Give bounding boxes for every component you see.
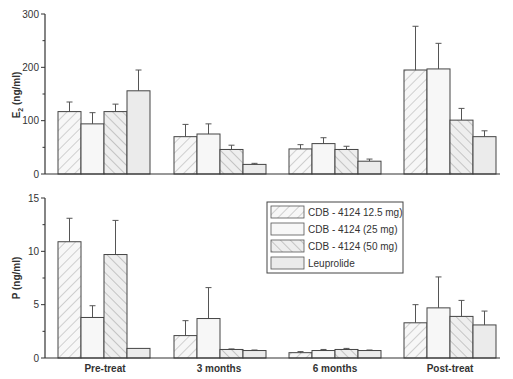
category-label-3-months: 3 months: [197, 363, 242, 374]
legend-label: CDB - 4124 (25 mg): [308, 224, 397, 235]
legend-label: CDB - 4124 12.5 mg): [308, 207, 403, 218]
y-tick-label: 0: [33, 169, 39, 180]
bar: [473, 325, 496, 358]
panel-e2: 0100200300: [22, 9, 500, 180]
legend-label: CDB - 4124 (50 mg): [308, 241, 397, 252]
bar: [174, 336, 197, 358]
bar: [335, 149, 358, 174]
bar: [220, 149, 243, 174]
bar: [197, 319, 220, 358]
bar: [358, 351, 381, 358]
bar: [312, 144, 335, 174]
bar: [127, 91, 150, 174]
category-labels: Pre-treat 3 months 6 months Post-treat: [84, 363, 474, 374]
y-tick-label: 0: [33, 353, 39, 364]
legend-swatch-hatch-forward: [271, 206, 304, 218]
y-tick-label: 200: [22, 62, 39, 73]
bar: [81, 124, 104, 174]
bar: [58, 242, 81, 358]
legend-swatch-plain-grey: [271, 257, 304, 269]
bar: [104, 112, 127, 174]
bar: [197, 134, 220, 174]
bar: [81, 317, 104, 358]
legend-item-leuprolide: Leuprolide: [271, 257, 355, 269]
figure: 0100200300 051015 E2 (ng/ml) P (ng/ml) P…: [0, 0, 513, 379]
legend-swatch-hatch-back: [271, 240, 304, 252]
legend-item-cdb-50: CDB - 4124 (50 mg): [271, 240, 397, 252]
y-axis-title-p: P (ng/ml): [11, 257, 22, 300]
legend-item-cdb-12-5: CDB - 4124 12.5 mg): [271, 206, 403, 218]
category-label-post-treat: Post-treat: [427, 363, 474, 374]
bar: [289, 149, 312, 174]
bar: [220, 349, 243, 358]
panel-progesterone: 051015: [28, 193, 500, 364]
y-tick-label: 100: [22, 115, 39, 126]
bar: [127, 348, 150, 358]
legend: CDB - 4124 12.5 mg) CDB - 4124 (25 mg) C…: [267, 202, 403, 273]
bar: [243, 164, 266, 174]
legend-swatch-plain: [271, 223, 304, 235]
y-tick-label: 5: [33, 299, 39, 310]
legend-item-cdb-25: CDB - 4124 (25 mg): [271, 223, 397, 235]
bar: [335, 349, 358, 358]
y-tick-label: 10: [28, 246, 40, 257]
bar: [174, 137, 197, 174]
bar: [404, 323, 427, 358]
legend-label: Leuprolide: [308, 258, 355, 269]
bar: [427, 69, 450, 174]
bar: [450, 316, 473, 358]
chart-svg: 0100200300 051015 E2 (ng/ml) P (ng/ml) P…: [0, 0, 513, 379]
bar: [404, 70, 427, 174]
category-label-pre-treat: Pre-treat: [84, 363, 126, 374]
bar: [450, 120, 473, 174]
bar: [473, 137, 496, 174]
bar: [58, 112, 81, 174]
y-tick-label: 15: [28, 193, 40, 204]
y-tick-label: 300: [22, 9, 39, 20]
y-axis-title-e2: E2 (ng/ml): [11, 72, 24, 119]
bar: [289, 353, 312, 358]
category-label-6-months: 6 months: [313, 363, 358, 374]
bar: [104, 255, 127, 358]
bar: [312, 351, 335, 358]
bar: [427, 308, 450, 358]
bar: [243, 351, 266, 358]
bar: [358, 161, 381, 174]
